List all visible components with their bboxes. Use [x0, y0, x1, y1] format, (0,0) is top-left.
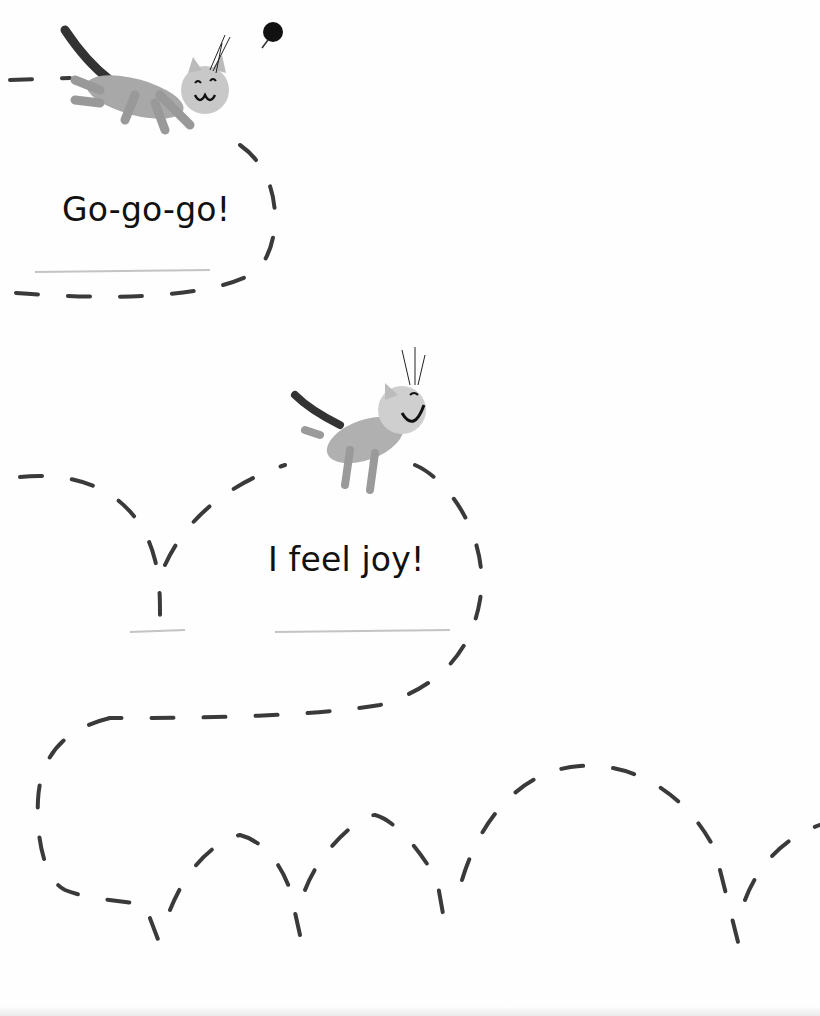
dashed-bounce-trail: [0, 0, 820, 1016]
page-edge: [0, 1006, 820, 1016]
caption-go-go-go: Go-go-go!: [62, 190, 230, 229]
caption-i-feel-joy: I feel joy!: [268, 540, 424, 579]
leaping-cat-illustration: [65, 30, 230, 130]
ball-icon: [262, 22, 283, 48]
flying-cat-illustration: [295, 347, 426, 490]
book-page: Go-go-go! I feel joy!: [0, 0, 820, 1016]
